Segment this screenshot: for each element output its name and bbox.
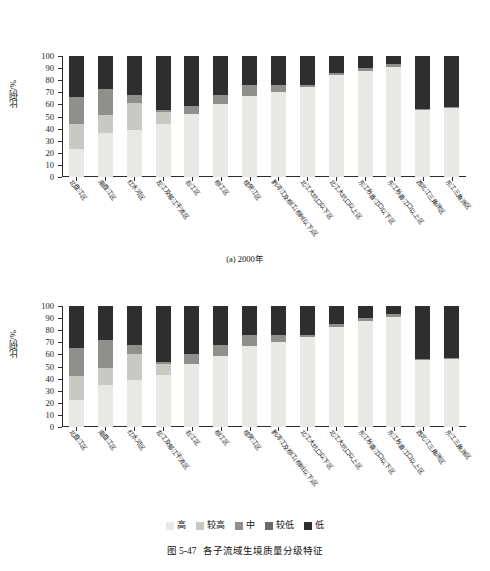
legend-swatch-icon	[166, 522, 174, 530]
bar-segment-低	[415, 306, 430, 359]
y-tick-label-a-70: 70	[14, 88, 54, 96]
axes-b: 0102030405060708090100	[62, 306, 466, 427]
bar-segment-高	[127, 130, 142, 177]
bar-a-11[interactable]	[386, 56, 401, 177]
legend-item-较低[interactable]: 较低	[265, 521, 294, 530]
bar-segment-低	[69, 306, 84, 348]
y-tick-label-a-90: 90	[14, 64, 54, 72]
bar-a-9[interactable]	[329, 56, 344, 177]
bar-a-4[interactable]	[184, 56, 199, 177]
bar-b-7[interactable]	[271, 306, 286, 427]
bar-segment-低	[98, 306, 113, 340]
bar-a-6[interactable]	[242, 56, 257, 177]
bar-a-13[interactable]	[444, 56, 459, 177]
bar-segment-高	[329, 327, 344, 427]
y-tick-label-b-90: 90	[14, 314, 54, 322]
bar-b-10[interactable]	[358, 306, 373, 427]
bar-b-4[interactable]	[184, 306, 199, 427]
bar-segment-较高	[98, 115, 113, 133]
y-tick-label-a-80: 80	[14, 76, 54, 84]
bar-segment-高	[300, 337, 315, 427]
y-tick-label-b-10: 10	[14, 411, 54, 419]
x-axis-label-a-5: 柳江区	[213, 178, 230, 196]
bar-segment-高	[184, 114, 199, 177]
bar-b-13[interactable]	[444, 306, 459, 427]
bar-segment-中	[184, 106, 199, 114]
bar-segment-高	[242, 96, 257, 177]
bar-segment-中	[127, 95, 142, 103]
bar-segment-低	[69, 56, 84, 97]
bar-segment-低	[444, 306, 459, 358]
legend-label: 低	[315, 521, 324, 530]
bar-a-8[interactable]	[300, 56, 315, 177]
legend-item-高[interactable]: 高	[166, 521, 186, 530]
bar-b-1[interactable]	[98, 306, 113, 427]
bar-segment-较高	[69, 376, 84, 400]
y-tick-label-a-100: 100	[14, 52, 54, 60]
bar-segment-高	[69, 149, 84, 177]
bar-segment-高	[329, 75, 344, 177]
bar-segment-高	[69, 400, 84, 427]
x-axis-label-a-2: 红水河区	[127, 178, 147, 201]
bar-segment-中	[213, 95, 228, 105]
bar-b-12[interactable]	[415, 306, 430, 427]
bar-a-2[interactable]	[127, 56, 142, 177]
figure-caption-text: 各子流域生境质量分级特征	[203, 546, 323, 556]
bar-b-0[interactable]	[69, 306, 84, 427]
bar-segment-高	[386, 317, 401, 427]
figure-caption: 图 5-47各子流域生境质量分级特征	[0, 543, 490, 557]
y-tick-label-a-0: 0	[14, 173, 54, 181]
bar-a-5[interactable]	[213, 56, 228, 177]
bar-segment-低	[184, 56, 199, 106]
bar-a-1[interactable]	[98, 56, 113, 177]
bar-b-9[interactable]	[329, 306, 344, 427]
bar-a-12[interactable]	[415, 56, 430, 177]
bar-segment-高	[358, 71, 373, 177]
x-axis-label-b-0: 北盘江区	[69, 428, 89, 451]
bar-b-5[interactable]	[213, 306, 228, 427]
bar-segment-中	[98, 340, 113, 368]
plot-area-b: 比例/% 0102030405060708090100 北盘江区南盘江区红水河区…	[0, 268, 490, 444]
legend-item-较高[interactable]: 较高	[196, 521, 225, 530]
bar-b-3[interactable]	[156, 306, 171, 427]
bar-segment-高	[300, 87, 315, 177]
bar-a-3[interactable]	[156, 56, 171, 177]
bar-segment-低	[300, 56, 315, 85]
y-tick-label-a-40: 40	[14, 125, 54, 133]
figure-page: 比例/% 0102030405060708090100 北盘江区南盘江区红水河区…	[0, 0, 490, 571]
bar-b-8[interactable]	[300, 306, 315, 427]
bar-segment-中	[242, 85, 257, 96]
legend-item-中[interactable]: 中	[235, 521, 255, 530]
bar-segment-低	[329, 306, 344, 324]
legend-swatch-icon	[265, 522, 273, 530]
bar-a-0[interactable]	[69, 56, 84, 177]
bar-segment-低	[386, 306, 401, 314]
legend-item-低[interactable]: 低	[304, 521, 324, 530]
bar-segment-低	[127, 56, 142, 95]
y-tick-label-a-10: 10	[14, 161, 54, 169]
y-tick-label-a-60: 60	[14, 100, 54, 108]
y-tick-label-a-20: 20	[14, 149, 54, 157]
subplot-caption-a: (a) 2000年	[0, 252, 490, 264]
bar-segment-低	[386, 56, 401, 64]
x-axis-label-a-4: 右江区	[184, 178, 201, 196]
bar-segment-中	[213, 345, 228, 356]
bar-segment-高	[156, 375, 171, 427]
y-tick-label-b-40: 40	[14, 375, 54, 383]
bar-b-2[interactable]	[127, 306, 142, 427]
bar-b-6[interactable]	[242, 306, 257, 427]
bar-segment-低	[444, 56, 459, 107]
x-axis-label-a-13: 东江三角洲区	[444, 178, 472, 211]
bar-segment-高	[213, 356, 228, 427]
chart-panel-a: 比例/% 0102030405060708090100 北盘江区南盘江区红水河区…	[0, 18, 490, 250]
bar-segment-中	[69, 348, 84, 376]
legend-swatch-icon	[196, 522, 204, 530]
bar-segment-低	[358, 56, 373, 68]
bar-b-11[interactable]	[386, 306, 401, 427]
x-axis-label-a-12: 西北江三角洲区	[415, 178, 446, 215]
bar-a-10[interactable]	[358, 56, 373, 177]
bar-a-7[interactable]	[271, 56, 286, 177]
bar-segment-较高	[156, 112, 171, 124]
legend-label: 高	[177, 521, 186, 530]
x-axis-label-b-6: 桂贺江区	[242, 428, 262, 451]
